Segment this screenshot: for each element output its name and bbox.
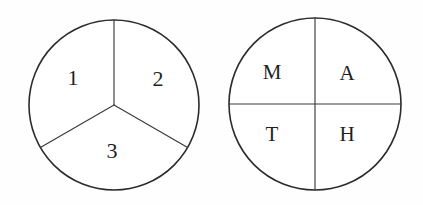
left-sector-label-3: 3 bbox=[107, 138, 118, 163]
left-sector-label-1: 1 bbox=[68, 65, 79, 90]
right-quadrant-label-t: T bbox=[266, 122, 279, 146]
right-circle-group: M A T H bbox=[229, 18, 401, 190]
left-sector-label-2: 2 bbox=[153, 66, 164, 91]
diagram-canvas: 1 2 3 M A T H bbox=[0, 0, 423, 205]
right-quadrant-label-h: H bbox=[339, 122, 354, 146]
right-quadrant-label-a: A bbox=[339, 61, 355, 85]
right-quadrant-label-m: M bbox=[263, 60, 282, 84]
figure-container: 1 2 3 M A T H bbox=[0, 0, 423, 205]
left-circle-group: 1 2 3 bbox=[29, 20, 199, 190]
